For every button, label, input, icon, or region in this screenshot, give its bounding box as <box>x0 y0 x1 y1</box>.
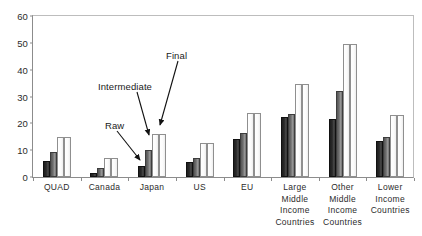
bar-group <box>366 15 414 177</box>
bar-intermediate <box>336 91 343 177</box>
bar-final <box>343 44 350 177</box>
bar-final2 <box>207 143 214 177</box>
bar-raw <box>43 161 50 177</box>
category-label-line: Middle <box>319 194 367 206</box>
x-axis-tick-mark <box>128 178 129 181</box>
bar-final2 <box>397 115 404 177</box>
x-axis-tick-mark <box>366 178 367 181</box>
category-label-line: Countries <box>271 217 319 229</box>
category-label-line: Countries <box>319 217 367 229</box>
bar-final <box>152 134 159 177</box>
x-axis-category-label: EU <box>224 182 272 228</box>
category-label-line: Income <box>271 205 319 217</box>
x-axis-category-label: OtherMiddleIncomeCountries <box>319 182 367 228</box>
bar-intermediate <box>288 114 295 177</box>
x-axis-tick-mark <box>414 178 415 181</box>
x-axis-category-label: LowerIncomeCountries <box>366 182 414 228</box>
x-axis-category-label: US <box>176 182 224 228</box>
bar-raw <box>329 119 336 177</box>
category-label-line: Japan <box>128 182 176 194</box>
bar-final <box>200 143 207 177</box>
bar-intermediate <box>383 137 390 177</box>
x-axis-labels: QUADCanadaJapanUSEULargeMiddleIncomeCoun… <box>33 182 414 228</box>
bar-group <box>271 15 319 177</box>
bar-final <box>390 115 397 177</box>
x-axis-category-label: Canada <box>81 182 129 228</box>
category-label-line: QUAD <box>33 182 81 194</box>
category-label-line: US <box>176 182 224 194</box>
bar-final2 <box>159 134 166 177</box>
bar-raw <box>281 117 288 177</box>
annotation-final: Final <box>166 50 187 61</box>
bar-raw <box>376 141 383 177</box>
bar-intermediate <box>240 133 247 177</box>
bar-final2 <box>254 113 261 177</box>
x-axis-tick-mark <box>271 178 272 181</box>
bar-group <box>176 15 224 177</box>
annotation-intermediate: Intermediate <box>98 81 152 92</box>
bar-intermediate <box>97 168 104 177</box>
x-axis-category-label: QUAD <box>33 182 81 228</box>
bar-raw <box>186 162 193 177</box>
bar-group <box>224 15 272 177</box>
annotation-raw: Raw <box>105 120 124 131</box>
category-label-line: EU <box>224 182 272 194</box>
bar-intermediate <box>50 152 57 177</box>
bar-final2 <box>111 158 118 177</box>
category-label-line: Large <box>271 182 319 194</box>
category-label-line: Other <box>319 182 367 194</box>
bar-raw <box>138 166 145 177</box>
bar-group <box>319 15 367 177</box>
bar-final <box>104 158 111 177</box>
category-label-line: Income <box>319 205 367 217</box>
bar-raw <box>233 139 240 177</box>
bar-final2 <box>350 44 357 177</box>
x-axis-tick-mark <box>176 178 177 181</box>
category-label-line: Income <box>366 194 414 206</box>
bar-groups <box>33 15 414 177</box>
bar-group <box>81 15 129 177</box>
bar-group <box>33 15 81 177</box>
bar-intermediate <box>145 150 152 177</box>
x-axis-tick-mark <box>224 178 225 181</box>
bar-final <box>247 113 254 177</box>
category-label-line: Lower <box>366 182 414 194</box>
x-axis-tick-mark <box>81 178 82 181</box>
bar-final <box>295 84 302 177</box>
x-axis-category-label: Japan <box>128 182 176 228</box>
bar-raw <box>90 173 97 177</box>
bar-final2 <box>64 137 71 177</box>
category-label-line: Middle <box>271 194 319 206</box>
bar-chart: 0102030405060 QUADCanadaJapanUSEULargeMi… <box>0 0 422 236</box>
x-axis-tick-mark <box>33 178 34 181</box>
category-label-line: Countries <box>366 205 414 217</box>
bar-final2 <box>302 84 309 177</box>
bar-final <box>57 137 64 177</box>
x-axis-category-label: LargeMiddleIncomeCountries <box>271 182 319 228</box>
category-label-line: Canada <box>81 182 129 194</box>
bar-intermediate <box>193 158 200 177</box>
x-axis-tick-mark <box>319 178 320 181</box>
bar-group <box>128 15 176 177</box>
